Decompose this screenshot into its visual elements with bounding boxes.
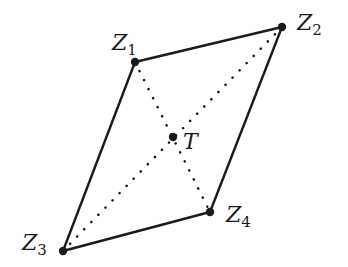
edge-z3-z1	[63, 62, 135, 251]
vertex-z3-point	[59, 247, 67, 255]
vertex-z1-point	[131, 58, 139, 66]
vertex-z3-label: Z3	[21, 230, 47, 259]
edge-z2-z4	[210, 27, 282, 212]
edge-z1-z2	[135, 27, 282, 62]
vertex-z2-point	[278, 23, 286, 31]
parallelogram-diagram: Z1 Z2 Z3 Z4 T	[0, 0, 348, 267]
center-t-label: T	[183, 129, 200, 154]
vertex-z2-label: Z2	[296, 10, 322, 39]
edge-z4-z3	[63, 212, 210, 251]
center-t-point	[169, 133, 177, 141]
vertex-z4-point	[206, 208, 214, 216]
vertex-z4-label: Z4	[225, 202, 251, 231]
vertex-z1-label: Z1	[111, 30, 137, 59]
